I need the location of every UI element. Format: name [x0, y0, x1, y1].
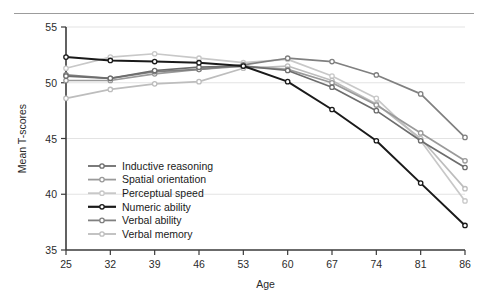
legend-label: Verbal ability [122, 214, 182, 226]
legend-label: Spatial orientation [122, 173, 206, 185]
series-inductive-reasoning [64, 64, 467, 170]
data-point [330, 85, 334, 89]
y-tick-label-50: 50 [45, 77, 57, 89]
legend-swatch-marker [100, 205, 104, 209]
legend-item-verbal-memory[interactable]: Verbal memory [88, 228, 193, 240]
x-tick-label-74: 74 [370, 258, 382, 270]
data-point [64, 55, 68, 59]
line-chart-svg: 354045505525323946536067748186AgeMean T-… [0, 0, 488, 308]
y-axis-title: Mean T-scores [16, 104, 28, 173]
x-tick-label-39: 39 [149, 258, 161, 270]
data-point [152, 52, 156, 56]
data-point [64, 66, 68, 70]
data-point [197, 56, 201, 60]
data-point [463, 165, 467, 169]
data-point [241, 64, 245, 68]
data-point [374, 96, 378, 100]
x-tick-label-25: 25 [60, 258, 72, 270]
legend-label: Inductive reasoning [122, 160, 213, 172]
legend-swatch-marker [100, 191, 104, 195]
data-point [463, 159, 467, 163]
data-point [108, 58, 112, 62]
x-tick-label-67: 67 [326, 258, 338, 270]
legend-swatch-marker [100, 218, 104, 222]
data-point [418, 131, 422, 135]
data-point [64, 74, 68, 78]
legend-label: Perceptual speed [122, 187, 204, 199]
data-point [152, 82, 156, 86]
y-tick-label-40: 40 [45, 188, 57, 200]
figure-container: 354045505525323946536067748186AgeMean T-… [0, 0, 488, 308]
data-point [330, 74, 334, 78]
data-point [374, 103, 378, 107]
legend-item-verbal-ability[interactable]: Verbal ability [88, 214, 182, 226]
data-point [285, 79, 289, 83]
data-point [418, 181, 422, 185]
data-point [197, 79, 201, 83]
x-tick-label-86: 86 [459, 258, 471, 270]
x-tick-label-32: 32 [104, 258, 116, 270]
series-spatial-orientation [64, 64, 467, 163]
series-line [66, 66, 465, 167]
data-point [463, 223, 467, 227]
data-point [463, 135, 467, 139]
legend-label: Verbal memory [122, 228, 193, 240]
data-point [463, 186, 467, 190]
data-point [108, 87, 112, 91]
series-line [66, 66, 465, 161]
data-point [285, 56, 289, 60]
data-point [64, 96, 68, 100]
data-point [64, 78, 68, 82]
legend-swatch-marker [100, 177, 104, 181]
data-point [108, 76, 112, 80]
data-point [152, 59, 156, 63]
data-point [197, 60, 201, 64]
legend-item-inductive-reasoning[interactable]: Inductive reasoning [88, 160, 213, 172]
data-point [374, 73, 378, 77]
data-point [152, 68, 156, 72]
data-point [197, 65, 201, 69]
legend-swatch-marker [100, 164, 104, 168]
data-point [330, 81, 334, 85]
data-point [330, 107, 334, 111]
x-tick-label-60: 60 [282, 258, 294, 270]
legend-item-perceptual-speed[interactable]: Perceptual speed [88, 187, 204, 199]
data-point [330, 59, 334, 63]
y-tick-label-35: 35 [45, 244, 57, 256]
x-tick-label-53: 53 [237, 258, 249, 270]
legend-item-numeric-ability[interactable]: Numeric ability [88, 201, 192, 213]
data-point [418, 139, 422, 143]
legend-label: Numeric ability [122, 201, 192, 213]
y-tick-label-55: 55 [45, 21, 57, 33]
y-tick-label-45: 45 [45, 133, 57, 145]
x-axis-title: Age [256, 278, 275, 290]
data-point [418, 92, 422, 96]
chart-plot-area: 354045505525323946536067748186AgeMean T-… [0, 0, 488, 308]
legend-item-spatial-orientation[interactable]: Spatial orientation [88, 173, 206, 185]
x-tick-label-81: 81 [415, 258, 427, 270]
x-tick-label-46: 46 [193, 258, 205, 270]
data-point [463, 199, 467, 203]
data-point [374, 108, 378, 112]
chart-legend: Inductive reasoningSpatial orientationPe… [88, 160, 213, 240]
data-point [374, 139, 378, 143]
data-point [285, 68, 289, 72]
legend-swatch-marker [100, 232, 104, 236]
